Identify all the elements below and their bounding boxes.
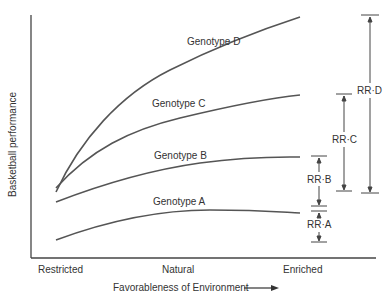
x-tick-restricted: Restricted bbox=[38, 264, 83, 275]
x-axis-title: Favorableness of Environment bbox=[113, 282, 249, 293]
label-genotype-c: Genotype C bbox=[152, 98, 205, 109]
curve-genotype-a bbox=[56, 210, 300, 240]
x-axis-title-arrow bbox=[244, 285, 279, 291]
x-tick-natural: Natural bbox=[162, 264, 194, 275]
y-axis-title: Basketball performance bbox=[7, 85, 18, 205]
label-rr-c: RR·C bbox=[332, 134, 357, 145]
label-genotype-b: Genotype B bbox=[154, 150, 207, 161]
label-genotype-d: Genotype D bbox=[187, 36, 240, 47]
label-genotype-a: Genotype A bbox=[153, 196, 205, 207]
label-rr-b: RR·B bbox=[307, 174, 331, 185]
x-tick-enriched: Enriched bbox=[283, 264, 322, 275]
label-rr-d: RR·D bbox=[357, 85, 382, 96]
label-rr-a: RR·A bbox=[307, 219, 331, 230]
rr-d-bracket bbox=[361, 15, 379, 193]
